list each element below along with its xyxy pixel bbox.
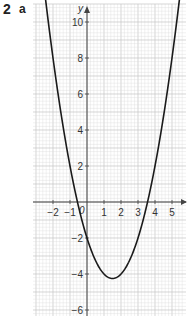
svg-text:−2: −2 [47,207,59,218]
svg-text:6: 6 [77,89,83,100]
grid [33,4,186,316]
parabola-curve [41,0,182,278]
svg-text:5: 5 [169,207,175,218]
svg-text:1: 1 [101,207,107,218]
svg-text:−4: −4 [72,269,84,280]
svg-text:4: 4 [152,207,158,218]
svg-text:−2: −2 [72,233,84,244]
axes: y [33,3,187,316]
svg-text:8: 8 [77,53,83,64]
svg-text:2: 2 [118,207,124,218]
svg-text:4: 4 [77,125,83,136]
svg-text:−1: −1 [64,207,76,218]
svg-text:2: 2 [77,161,83,172]
svg-text:3: 3 [135,207,141,218]
svg-text:−6: −6 [72,305,84,316]
svg-text:y: y [77,3,84,14]
svg-text:10: 10 [72,17,84,28]
parabola-graph: y −2−112345−6−4−22468100 [0,0,188,316]
